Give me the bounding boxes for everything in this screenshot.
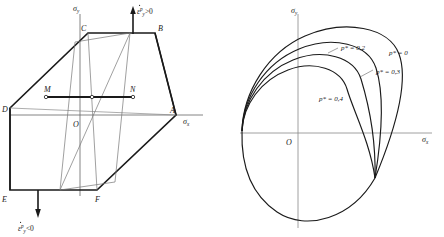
vertex-label-c: C	[81, 24, 87, 33]
vertex-label-m: M	[43, 85, 52, 94]
figure-svg: σy σx A B C D E F M N O εpy>0 εpy<0	[0, 0, 444, 237]
right-panel: p* = 0 p* = 0,2 p* = 0,3 p* = 0,4 σy σx …	[240, 6, 432, 228]
prism-edge-ba	[155, 33, 176, 115]
yield-locus-p02	[242, 42, 381, 178]
yield-locus-p03	[242, 55, 375, 178]
strain-rate-positive-annotation: εpy>0	[137, 5, 153, 17]
left-sigma-x-label: σx	[183, 117, 190, 127]
svg-text:εpy>0: εpy>0	[137, 6, 153, 17]
right-sigma-y-label: σy	[291, 6, 298, 16]
vertex-label-n: N	[129, 85, 136, 94]
right-sigma-x-label: σx	[422, 135, 429, 145]
leader-p02	[328, 48, 338, 53]
vertex-label-d: D	[1, 105, 8, 114]
vertex-label-e: E	[1, 195, 7, 204]
right-origin-label: O	[286, 138, 292, 147]
vertex-label-a: A	[169, 106, 175, 115]
curve-label-p03: p* = 0,3	[375, 68, 400, 76]
epsilon-dot-down	[20, 222, 21, 223]
strain-rate-arrow-up-head	[130, 6, 136, 14]
left-panel: σy σx A B C D E F M N O εpy>0 εpy<0	[1, 4, 203, 234]
prism-interior-diagonal	[60, 33, 130, 190]
curve-label-p02: p* = 0,2	[340, 44, 365, 52]
strain-rate-arrow-down-head	[35, 209, 41, 218]
figure-container: σy σx A B C D E F M N O εpy>0 εpy<0	[0, 0, 444, 237]
epsilon-dot-up	[139, 5, 140, 6]
strain-rate-negative-annotation: εpy<0	[18, 222, 34, 234]
curve-label-p0: p* = 0	[388, 49, 408, 57]
curve-label-p04: p* = 0,4	[318, 95, 343, 103]
left-sigma-y-label: σy	[73, 4, 80, 14]
point-m-marker	[44, 95, 47, 98]
yield-locus-p0	[242, 27, 402, 221]
svg-text:εpy<0: εpy<0	[18, 223, 34, 234]
vertex-label-f: F	[94, 195, 100, 204]
vertex-label-b: B	[158, 24, 163, 33]
leader-p03	[360, 70, 373, 77]
point-n-marker	[131, 95, 134, 98]
left-origin-label: O	[73, 120, 79, 129]
point-mid-marker	[90, 95, 93, 98]
prism-edge-da	[10, 108, 176, 115]
